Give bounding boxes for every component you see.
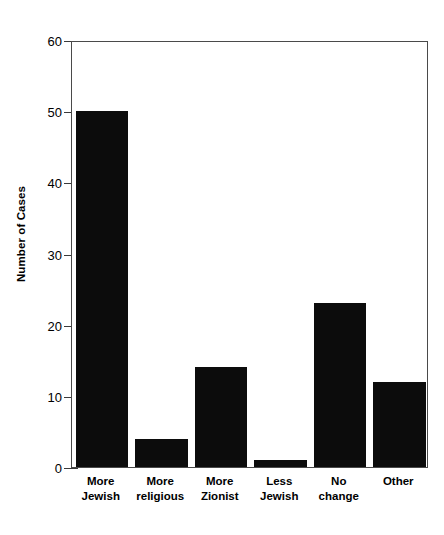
x-axis-tick-label: No change [309, 474, 369, 504]
bars-layer [72, 42, 427, 467]
y-axis-tick-label: 10 [34, 389, 62, 404]
bar [314, 303, 367, 467]
bar [254, 460, 307, 467]
y-axis-title: Number of Cases [10, 0, 32, 468]
plot-area [71, 41, 428, 468]
x-axis-tick-label: Less Jewish [250, 474, 310, 504]
x-axis-tick-label: More Zionist [190, 474, 250, 504]
x-axis-tick-label: More Jewish [71, 474, 131, 504]
y-axis-title-text: Number of Cases [15, 186, 27, 282]
y-axis-tick-label: 30 [34, 247, 62, 262]
bar [195, 367, 248, 467]
y-axis-tick-label: 0 [34, 461, 62, 476]
bar [135, 439, 188, 467]
x-axis-tick-labels: More JewishMore religiousMore ZionistLes… [71, 474, 428, 532]
y-axis-tick-label: 20 [34, 318, 62, 333]
bar [373, 382, 426, 467]
bar-chart-figure: Number of Cases 0102030405060 More Jewis… [0, 0, 444, 535]
bar [76, 111, 129, 467]
y-axis-tick-label: 40 [34, 176, 62, 191]
y-axis-tick-mark [64, 468, 78, 469]
x-axis-tick-label: More religious [131, 474, 191, 504]
y-axis-tick-label: 60 [34, 34, 62, 49]
y-axis-tick-label: 50 [34, 105, 62, 120]
y-axis-tick-labels: 0102030405060 [32, 0, 62, 535]
x-axis-tick-label: Other [369, 474, 429, 489]
